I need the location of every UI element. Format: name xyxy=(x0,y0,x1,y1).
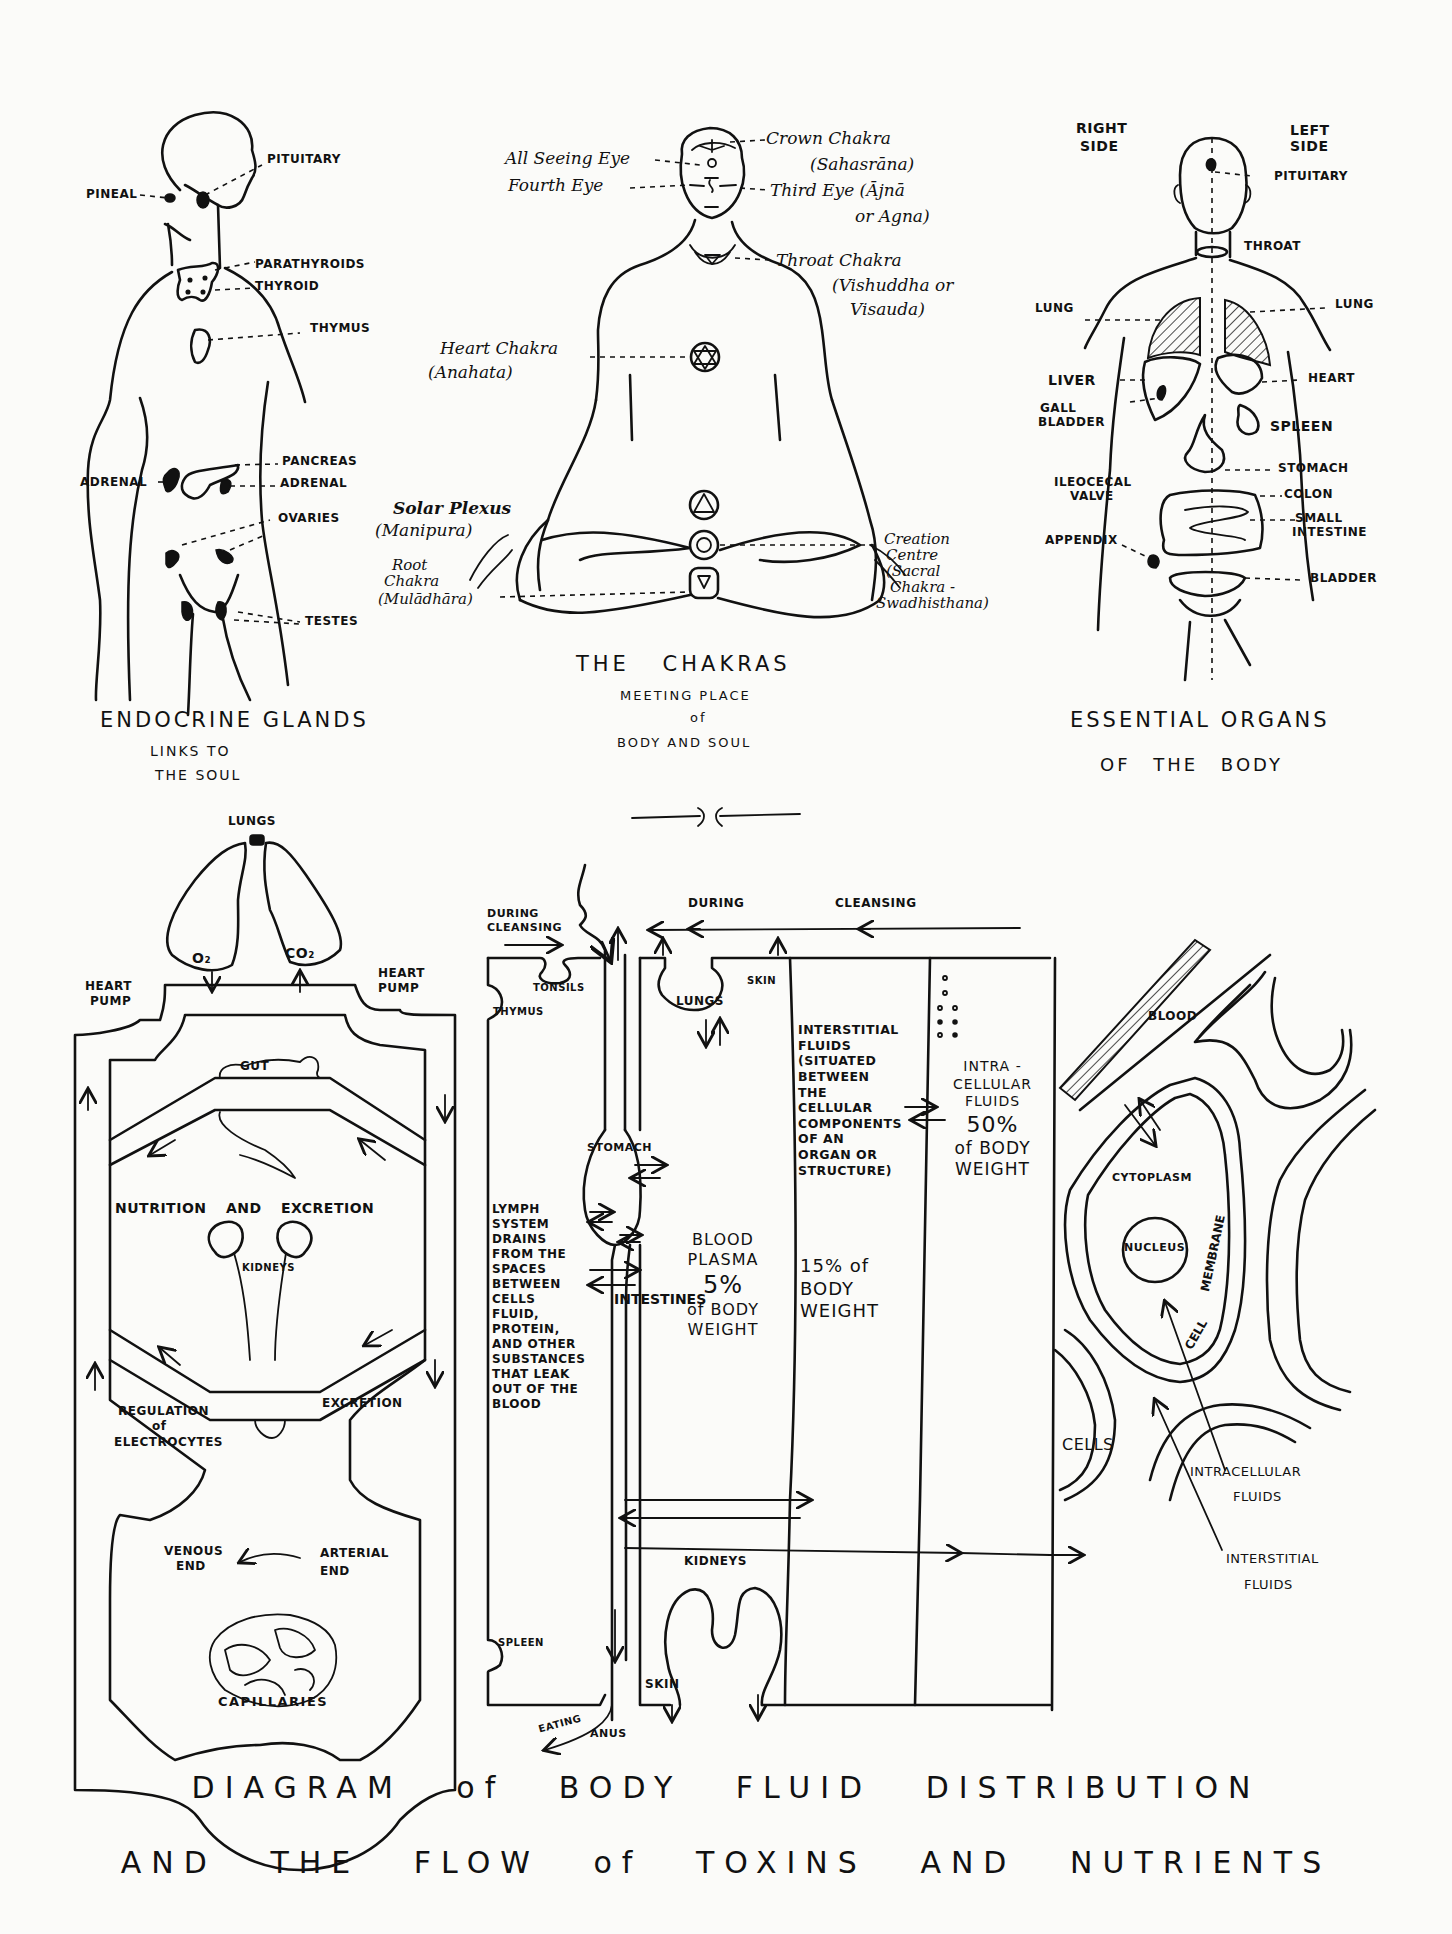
label-interstitial-1: INTERSTITIAL xyxy=(1226,1552,1319,1567)
label-venous-1: VENOUS xyxy=(164,1545,223,1559)
intracellular-block: INTRA - CELLULAR FLUIDS 50% of BODY WEIG… xyxy=(935,1058,1050,1181)
label-ileocecal-1: ILEOCECAL xyxy=(1054,476,1132,490)
blood-plasma-line: of BODY xyxy=(668,1300,778,1320)
label-solar-plexus-sanskrit: (Manipura) xyxy=(375,520,472,540)
label-fluid-kidneys: KIDNEYS xyxy=(684,1555,747,1569)
lymph-line: FROM THE xyxy=(492,1247,582,1262)
label-co2: CO₂ xyxy=(285,945,315,961)
endocrine-title: ENDOCRINE GLANDS xyxy=(100,708,369,732)
interstitial-percent-line: WEIGHT xyxy=(800,1300,910,1323)
label-stomach: STOMACH xyxy=(1278,462,1349,476)
organs-title: ESSENTIAL ORGANS xyxy=(1070,708,1329,732)
interstitial-line: COMPONENTS xyxy=(798,1116,928,1132)
label-bladder: BLADDER xyxy=(1310,572,1377,586)
lymph-line: DRAINS xyxy=(492,1232,582,1247)
lymph-line: BLOOD xyxy=(492,1397,582,1412)
label-top-cleansing: CLEANSING xyxy=(835,897,916,911)
label-pancreas: PANCREAS xyxy=(282,455,357,469)
lymph-line: CELLS xyxy=(492,1292,582,1307)
intracellular-percent: 50% xyxy=(935,1111,1050,1139)
label-ileocecal-2: VALVE xyxy=(1070,490,1114,504)
label-heart-pump-left-2: PUMP xyxy=(90,995,131,1009)
label-third-eye-alt: or Agna) xyxy=(855,206,930,226)
intracellular-line: CELLULAR xyxy=(935,1076,1050,1094)
chakras-subtitle-1: MEETING PLACE xyxy=(620,685,751,707)
lymph-line: LYMPH xyxy=(492,1202,582,1217)
label-right-side-1: RIGHT xyxy=(1076,120,1127,136)
label-creation-sanskrit: Swadhisthana) xyxy=(876,594,989,612)
organs-figure xyxy=(1085,138,1330,680)
label-gall-1: GALL xyxy=(1040,402,1076,416)
label-fluid-thymus: THYMUS xyxy=(493,1006,544,1018)
label-kidneys: KIDNEYS xyxy=(242,1262,295,1274)
interstitial-percent-block: 15% of BODY WEIGHT xyxy=(800,1255,910,1323)
label-regulation-2: of xyxy=(152,1420,166,1434)
chakra-figure xyxy=(470,128,905,826)
lymph-line: AND OTHER xyxy=(492,1337,582,1352)
label-arterial-2: END xyxy=(320,1565,350,1579)
label-adrenal-right: ADRENAL xyxy=(280,477,347,491)
label-interstitial-2: FLUIDS xyxy=(1244,1578,1293,1593)
blood-plasma-block: BLOOD PLASMA 5% of BODY WEIGHT xyxy=(668,1230,778,1340)
label-left-side-2: SIDE xyxy=(1290,138,1328,154)
label-parathyroids: PARATHYROIDS xyxy=(255,258,365,272)
label-nutrition-excretion: NUTRITION AND EXCRETION xyxy=(115,1200,374,1216)
interstitial-line: BETWEEN xyxy=(798,1069,928,1085)
label-throat-chakra-sanskrit: (Vishuddha or xyxy=(832,275,953,295)
interstitial-line: FLUIDS xyxy=(798,1038,928,1054)
label-cytoplasm: CYTOPLASM xyxy=(1112,1172,1192,1185)
label-organ-pituitary: PITUITARY xyxy=(1274,170,1348,184)
label-stomach: STOMACH xyxy=(587,1142,652,1155)
blood-plasma-line: WEIGHT xyxy=(668,1320,778,1340)
label-regulation-1: REGULATION xyxy=(118,1405,209,1419)
lymph-line: PROTEIN, xyxy=(492,1322,582,1337)
label-pineal: PINEAL xyxy=(86,188,137,202)
intracellular-line: WEIGHT xyxy=(935,1159,1050,1180)
intracellular-line: FLUIDS xyxy=(935,1093,1050,1111)
label-thyroid: THYROID xyxy=(255,280,319,294)
interstitial-line: STRUCTURE) xyxy=(798,1163,928,1179)
label-heart-chakra: Heart Chakra xyxy=(440,338,558,358)
line-art xyxy=(0,0,1452,1934)
label-small-intestine-2: INTESTINE xyxy=(1292,526,1367,540)
endocrine-figure xyxy=(88,112,305,715)
interstitial-line: OF AN xyxy=(798,1131,928,1147)
label-gall-2: BLADDER xyxy=(1038,416,1105,430)
blood-plasma-percent: 5% xyxy=(668,1270,778,1300)
label-cells: CELLS xyxy=(1062,1436,1114,1454)
label-skin-bottom: SKIN xyxy=(645,1678,679,1692)
label-small-intestine-1: SMALL xyxy=(1295,512,1343,526)
endocrine-subtitle-2: THE SOUL xyxy=(155,764,241,788)
blood-plasma-line: BLOOD xyxy=(668,1230,778,1250)
lymph-line: SYSTEM xyxy=(492,1217,582,1232)
label-right-side-2: SIDE xyxy=(1080,138,1118,154)
interstitial-line: INTERSTITIAL xyxy=(798,1022,928,1038)
chakras-subtitle-3: BODY AND SOUL xyxy=(617,732,751,754)
label-root-sanskrit: (Mulādhāra) xyxy=(378,590,473,608)
label-tonsils: TONSILS xyxy=(533,982,585,994)
interstitial-line: CELLULAR xyxy=(798,1100,928,1116)
label-lungs: LUNGS xyxy=(228,815,276,829)
label-heart: HEART xyxy=(1308,372,1355,386)
label-excretion: EXCRETION xyxy=(322,1397,403,1411)
label-gut: GUT xyxy=(240,1060,269,1074)
label-heart-pump-right-1: HEART xyxy=(378,967,425,981)
label-appendix: APPENDIX xyxy=(1045,534,1118,548)
interstitial-percent-line: BODY xyxy=(800,1278,910,1301)
label-fluid-spleen: SPLEEN xyxy=(498,1637,544,1649)
label-o2: O₂ xyxy=(192,950,211,966)
label-heart-pump-left-1: HEART xyxy=(85,980,132,994)
label-pituitary: PITUITARY xyxy=(267,153,341,167)
label-lung-right: LUNG xyxy=(1035,302,1074,316)
label-intracellular-2: FLUIDS xyxy=(1233,1490,1282,1505)
interstitial-line: ORGAN OR xyxy=(798,1147,928,1163)
label-capillaries: CAPILLARIES xyxy=(218,1695,328,1710)
label-colon: COLON xyxy=(1284,488,1333,502)
label-spleen: SPLEEN xyxy=(1270,418,1333,434)
label-anus: ANUS xyxy=(590,1728,627,1741)
chakras-subtitle-2: of xyxy=(690,707,707,729)
label-fluid-lungs: LUNGS xyxy=(676,995,724,1009)
label-top-during: DURING xyxy=(688,897,744,911)
intracellular-line: of BODY xyxy=(935,1138,1050,1159)
label-during-cleansing-1: DURING xyxy=(487,908,539,921)
